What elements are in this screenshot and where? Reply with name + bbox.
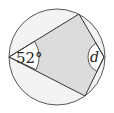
- angle-label-52: 52°: [16, 49, 43, 67]
- diagram-canvas: 52° d: [0, 0, 114, 113]
- angle-label-d: d: [90, 49, 99, 65]
- cyclic-quadrilateral-diagram: 52° d: [0, 0, 114, 113]
